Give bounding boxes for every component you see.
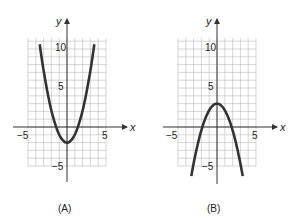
tick-y-neg5-a: −5 (52, 161, 64, 172)
tick-x-neg5-a: −5 (17, 130, 29, 141)
x-axis-label-b: x (279, 121, 286, 133)
y-axis-label-b: y (205, 15, 213, 27)
panel-b: x y −5 5 10 5 −5 (B) (163, 15, 286, 214)
tick-x-neg5-b: −5 (166, 130, 178, 141)
tick-y-5-b: 5 (208, 81, 214, 92)
tick-y-neg5-b: −5 (202, 161, 214, 172)
caption-b: (B) (207, 203, 220, 214)
tick-y-5-a: 5 (58, 81, 64, 92)
panel-a: x y −5 5 10 5 −5 (A) (13, 15, 136, 214)
figure: x y −5 5 10 5 −5 (A) x y −5 5 10 5 −5 (B… (0, 0, 303, 224)
tick-y-10-a: 10 (55, 42, 67, 53)
caption-a: (A) (58, 203, 71, 214)
tick-y-10-b: 10 (205, 42, 217, 53)
tick-x-5-b: 5 (252, 130, 258, 141)
y-axis-label-a: y (55, 15, 63, 27)
tick-x-5-a: 5 (102, 130, 108, 141)
x-axis-label-a: x (129, 121, 136, 133)
